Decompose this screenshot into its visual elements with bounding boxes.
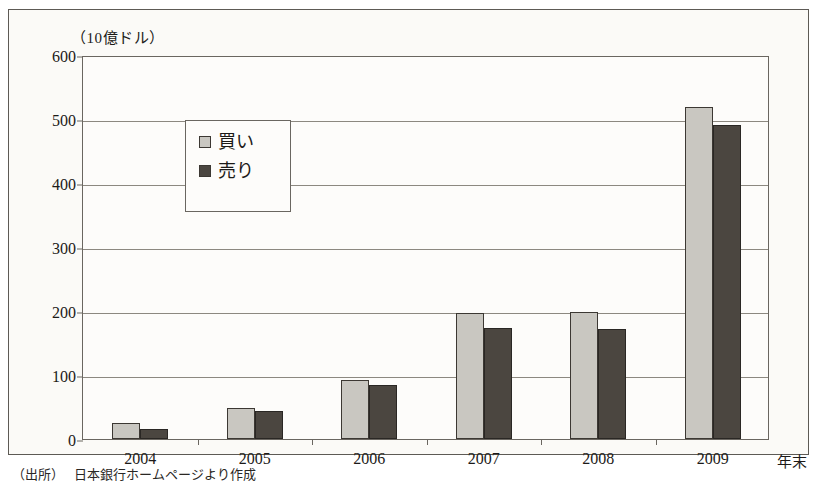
bars-layer: [83, 57, 768, 439]
legend-swatch-buy: [199, 136, 211, 148]
x-tick-mark: [198, 439, 199, 445]
bar-sell-2004: [140, 429, 168, 439]
bar-group: [456, 57, 512, 439]
y-tick-mark: [77, 441, 83, 442]
bar-group: [227, 57, 283, 439]
bar-sell-2009: [713, 125, 741, 439]
plot-area: 0100200300400500600 20042005200620072008…: [82, 56, 769, 440]
y-tick-label: 500: [52, 113, 76, 129]
bar-buy-2004: [112, 423, 140, 439]
y-tick-label: 300: [52, 241, 76, 257]
bar-buy-2007: [456, 313, 484, 439]
bar-buy-2008: [570, 312, 598, 439]
y-axis-unit-label: （10億ドル）: [71, 26, 165, 47]
bar-group: [685, 57, 741, 439]
bar-group: [112, 57, 168, 439]
source-label: （出所）: [12, 467, 64, 482]
y-tick-label: 100: [52, 369, 76, 385]
bar-group: [341, 57, 397, 439]
legend: 買い 売り: [185, 120, 291, 212]
x-axis-title: 年末: [777, 450, 807, 471]
bar-sell-2005: [255, 411, 283, 439]
bar-buy-2005: [227, 408, 255, 439]
x-tick-label: 2008: [582, 450, 614, 468]
x-tick-label: 2009: [697, 450, 729, 468]
figure-frame: （10億ドル） 0100200300400500600 200420052006…: [8, 9, 809, 455]
x-tick-mark: [312, 439, 313, 445]
legend-label-sell: 売り: [218, 162, 254, 180]
x-tick-label: 2007: [468, 450, 500, 468]
bar-sell-2007: [484, 328, 512, 439]
legend-swatch-sell: [199, 165, 211, 177]
x-tick-mark: [656, 439, 657, 445]
y-tick-label: 600: [52, 49, 76, 65]
y-tick-label: 200: [52, 305, 76, 321]
legend-item-buy: 買い: [199, 133, 290, 151]
legend-label-buy: 買い: [218, 133, 254, 151]
bar-group: [570, 57, 626, 439]
y-tick-label: 0: [68, 433, 76, 449]
x-tick-mark: [427, 439, 428, 445]
legend-item-sell: 売り: [199, 162, 290, 180]
y-tick-label: 400: [52, 177, 76, 193]
source-text: 日本銀行ホームページより作成: [74, 467, 256, 482]
bar-buy-2009: [685, 107, 713, 439]
bar-sell-2006: [369, 385, 397, 439]
bar-buy-2006: [341, 380, 369, 439]
bar-sell-2008: [598, 329, 626, 439]
x-tick-mark: [541, 439, 542, 445]
x-tick-label: 2006: [353, 450, 385, 468]
source-note: （出所）日本銀行ホームページより作成: [12, 464, 256, 483]
